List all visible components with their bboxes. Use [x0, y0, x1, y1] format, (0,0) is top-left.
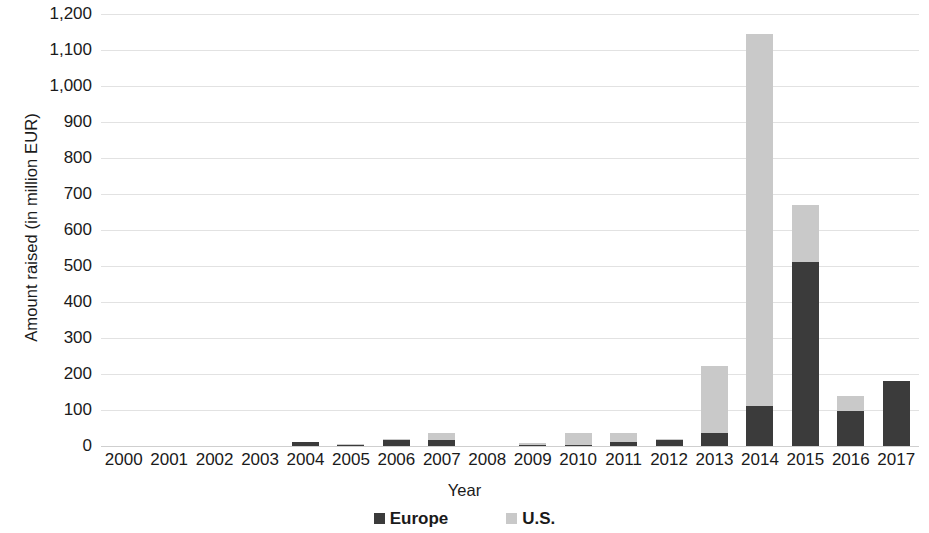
bar-segment-us-2009[interactable] [519, 443, 546, 446]
bar-2014[interactable] [746, 34, 773, 446]
bar-segment-us-2010[interactable] [565, 433, 592, 445]
bar-2006[interactable] [383, 439, 410, 446]
bar-2013[interactable] [701, 366, 728, 446]
x-axis-label-2004: 2004 [283, 450, 328, 470]
legend-swatch-europe [374, 513, 385, 524]
y-axis-label-0: 0 [14, 437, 92, 454]
x-axis-label-2005: 2005 [328, 450, 373, 470]
x-axis-label-2012: 2012 [646, 450, 691, 470]
chart-legend: EuropeU.S. [0, 510, 929, 527]
legend-item-us[interactable]: U.S. [506, 510, 555, 527]
bar-2010[interactable] [565, 433, 592, 446]
x-axis-label-2003: 2003 [237, 450, 282, 470]
bar-segment-europe-2006[interactable] [383, 440, 410, 446]
bar-segment-us-2005[interactable] [337, 444, 364, 445]
x-axis-label-2002: 2002 [192, 450, 237, 470]
bar-segment-us-2014[interactable] [746, 34, 773, 406]
y-axis-label-1100: 1,100 [14, 41, 92, 58]
bar-segment-europe-2009[interactable] [519, 445, 546, 446]
x-axis-label-2006: 2006 [374, 450, 419, 470]
y-axis-label-1000: 1,000 [14, 77, 92, 94]
gridline-0 [101, 446, 919, 447]
bar-segment-europe-2012[interactable] [656, 440, 683, 446]
x-axis-title: Year [0, 481, 929, 500]
x-axis-label-2000: 2000 [101, 450, 146, 470]
x-axis-label-2015: 2015 [783, 450, 828, 470]
y-axis-label-400: 400 [14, 293, 92, 310]
y-axis-label-700: 700 [14, 185, 92, 202]
bar-2005[interactable] [337, 444, 364, 446]
legend-item-europe[interactable]: Europe [374, 510, 449, 527]
bar-2015[interactable] [792, 205, 819, 446]
bar-segment-europe-2011[interactable] [610, 442, 637, 446]
x-axis-label-2014: 2014 [737, 450, 782, 470]
bar-segment-europe-2007[interactable] [428, 440, 455, 446]
y-axis-label-500: 500 [14, 257, 92, 274]
bar-segment-us-2015[interactable] [792, 205, 819, 262]
y-axis-label-100: 100 [14, 401, 92, 418]
bar-segment-europe-2017[interactable] [883, 381, 910, 446]
legend-label-us: U.S. [522, 510, 555, 527]
y-axis-label-800: 800 [14, 149, 92, 166]
bar-2009[interactable] [519, 443, 546, 446]
bar-segment-us-2016[interactable] [837, 396, 864, 411]
bar-segment-europe-2010[interactable] [565, 445, 592, 446]
y-axis-label-600: 600 [14, 221, 92, 238]
bar-chart: Amount raised (in million EUR) 1,2001,10… [0, 0, 929, 533]
x-axis-tick-labels: 2000200120022003200420052006200720082009… [101, 450, 919, 474]
legend-label-europe: Europe [390, 510, 449, 527]
bar-2007[interactable] [428, 433, 455, 446]
plot-area [101, 14, 919, 446]
x-axis-label-2011: 2011 [601, 450, 646, 470]
y-axis-label-300: 300 [14, 329, 92, 346]
x-axis-label-2008: 2008 [465, 450, 510, 470]
y-axis-label-200: 200 [14, 365, 92, 382]
bar-segment-us-2007[interactable] [428, 433, 455, 439]
bar-2017[interactable] [883, 381, 910, 446]
y-axis-label-1200: 1,200 [14, 5, 92, 22]
bar-segment-europe-2013[interactable] [701, 433, 728, 446]
bar-segment-europe-2016[interactable] [837, 411, 864, 446]
bar-segment-us-2012[interactable] [656, 439, 683, 440]
x-axis-label-2013: 2013 [692, 450, 737, 470]
bar-segment-europe-2005[interactable] [337, 445, 364, 446]
bar-2004[interactable] [292, 442, 319, 446]
y-axis-label-900: 900 [14, 113, 92, 130]
bar-segment-us-2013[interactable] [701, 366, 728, 433]
legend-swatch-us [506, 513, 517, 524]
bar-2012[interactable] [656, 439, 683, 446]
x-axis-label-2016: 2016 [828, 450, 873, 470]
y-axis-tick-labels: 1,2001,1001,0009008007006005004003002001… [14, 0, 92, 533]
bar-segment-europe-2014[interactable] [746, 406, 773, 446]
x-axis-label-2007: 2007 [419, 450, 464, 470]
x-axis-label-2001: 2001 [146, 450, 191, 470]
bar-segment-europe-2004[interactable] [292, 442, 319, 446]
x-axis-label-2017: 2017 [874, 450, 919, 470]
bar-segment-us-2006[interactable] [383, 439, 410, 440]
bar-segment-us-2011[interactable] [610, 433, 637, 442]
bar-2016[interactable] [837, 396, 864, 446]
bars-layer [101, 14, 919, 446]
x-axis-label-2009: 2009 [510, 450, 555, 470]
bar-segment-europe-2015[interactable] [792, 262, 819, 446]
x-axis-label-2010: 2010 [555, 450, 600, 470]
bar-2011[interactable] [610, 433, 637, 446]
